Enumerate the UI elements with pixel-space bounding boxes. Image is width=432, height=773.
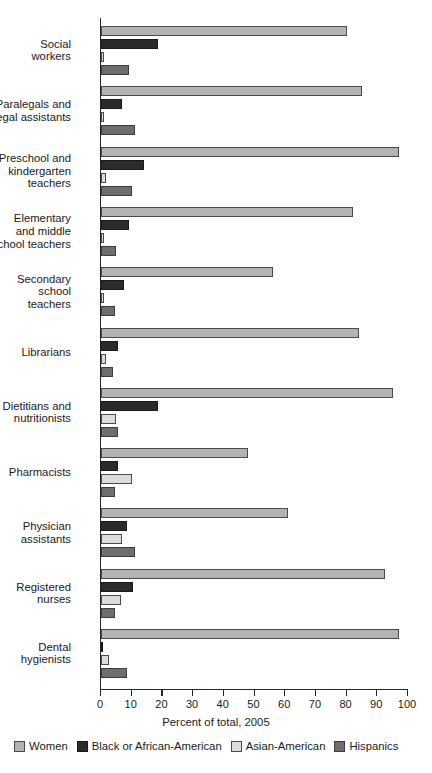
x-axis-tick bbox=[223, 690, 224, 696]
bar bbox=[101, 160, 144, 170]
bar bbox=[101, 246, 116, 256]
bar bbox=[101, 86, 362, 96]
bar bbox=[101, 534, 122, 544]
legend-item[interactable]: Black or African-American bbox=[77, 740, 222, 752]
x-axis-tick-label: 80 bbox=[339, 698, 351, 710]
bar bbox=[101, 642, 103, 652]
bar bbox=[101, 112, 104, 122]
legend-swatch-icon bbox=[334, 741, 345, 752]
category-label: Physician assistants bbox=[0, 520, 71, 545]
x-axis-tick bbox=[161, 690, 162, 696]
bar bbox=[101, 414, 116, 424]
legend-item[interactable]: Hispanics bbox=[334, 740, 398, 752]
bar bbox=[101, 280, 124, 290]
x-axis-tick-label: 10 bbox=[124, 698, 136, 710]
bar-group: Social workers bbox=[101, 26, 408, 75]
bar bbox=[101, 427, 118, 437]
bar bbox=[101, 99, 122, 109]
bar-group: Paralegals and legal assistants bbox=[101, 86, 408, 135]
bar bbox=[101, 448, 248, 458]
bar bbox=[101, 521, 127, 531]
x-axis-tick bbox=[192, 690, 193, 696]
category-label: Secondary school teachers bbox=[0, 273, 71, 311]
bar bbox=[101, 52, 104, 62]
bar-group: Librarians bbox=[101, 328, 408, 377]
category-label: Paralegals and legal assistants bbox=[0, 98, 71, 123]
bar bbox=[101, 26, 347, 36]
legend-label: Asian-American bbox=[246, 740, 326, 752]
bar-group: Dental hygienists bbox=[101, 629, 408, 678]
bar-group: Elementary and middle school teachers bbox=[101, 207, 408, 256]
bar bbox=[101, 125, 135, 135]
bar-group: Secondary school teachers bbox=[101, 267, 408, 316]
bar bbox=[101, 388, 393, 398]
legend-swatch-icon bbox=[231, 741, 242, 752]
legend-swatch-icon bbox=[77, 741, 88, 752]
x-axis-tick-label: 40 bbox=[217, 698, 229, 710]
x-axis-tick bbox=[100, 690, 101, 696]
legend-swatch-icon bbox=[14, 741, 25, 752]
bar bbox=[101, 39, 158, 49]
category-label: Dietitians and nutritionists bbox=[0, 400, 71, 425]
bar bbox=[101, 220, 129, 230]
bar bbox=[101, 582, 133, 592]
bar bbox=[101, 608, 115, 618]
bar bbox=[101, 655, 109, 665]
bar-group: Dietitians and nutritionists bbox=[101, 388, 408, 437]
x-axis-tick bbox=[346, 690, 347, 696]
bar bbox=[101, 233, 104, 243]
bar-group: Pharmacists bbox=[101, 448, 408, 497]
x-axis-title: Percent of total, 2005 bbox=[0, 716, 432, 728]
bar bbox=[101, 267, 273, 277]
bar bbox=[101, 293, 104, 303]
legend-label: Women bbox=[29, 740, 68, 752]
bar-group: Physician assistants bbox=[101, 508, 408, 557]
bar bbox=[101, 629, 399, 639]
x-axis-tick bbox=[315, 690, 316, 696]
x-axis-tick-label: 70 bbox=[309, 698, 321, 710]
bar bbox=[101, 401, 158, 411]
legend-item[interactable]: Asian-American bbox=[231, 740, 326, 752]
category-label: Registered nurses bbox=[0, 581, 71, 606]
category-label: Dental hygienists bbox=[0, 641, 71, 666]
category-label: Preschool and kindergarten teachers bbox=[0, 152, 71, 190]
x-axis-tick bbox=[254, 690, 255, 696]
legend-item[interactable]: Women bbox=[14, 740, 68, 752]
x-axis-tick-label: 100 bbox=[398, 698, 417, 710]
bar bbox=[101, 306, 115, 316]
x-axis-tick-label: 0 bbox=[97, 698, 103, 710]
x-axis-tick bbox=[284, 690, 285, 696]
legend-label: Hispanics bbox=[349, 740, 398, 752]
category-label: Social workers bbox=[0, 38, 71, 63]
bar bbox=[101, 173, 106, 183]
category-label: Librarians bbox=[0, 346, 71, 359]
bar bbox=[101, 474, 132, 484]
bar bbox=[101, 186, 132, 196]
bar-group: Preschool and kindergarten teachers bbox=[101, 147, 408, 196]
bar bbox=[101, 595, 121, 605]
bar bbox=[101, 508, 288, 518]
x-axis-tick-label: 20 bbox=[155, 698, 167, 710]
x-axis-tick-label: 50 bbox=[247, 698, 259, 710]
x-axis-tick bbox=[407, 690, 408, 696]
legend-label: Black or African-American bbox=[92, 740, 222, 752]
plot-area: 0102030405060708090100 Social workersPar… bbox=[0, 0, 432, 700]
bar bbox=[101, 147, 399, 157]
bar bbox=[101, 569, 385, 579]
bar bbox=[101, 461, 118, 471]
bar bbox=[101, 354, 106, 364]
bar-group: Registered nurses bbox=[101, 569, 408, 618]
x-axis-tick bbox=[376, 690, 377, 696]
chart-legend: WomenBlack or African-AmericanAsian-Amer… bbox=[0, 740, 432, 752]
bar bbox=[101, 668, 127, 678]
bar bbox=[101, 547, 135, 557]
category-label: Elementary and middle school teachers bbox=[0, 212, 71, 250]
bar bbox=[101, 328, 359, 338]
x-axis-tick-label: 30 bbox=[186, 698, 198, 710]
bar bbox=[101, 65, 129, 75]
x-axis-tick bbox=[131, 690, 132, 696]
chart-root: 0102030405060708090100 Social workersPar… bbox=[0, 0, 432, 773]
x-axis-tick-label: 90 bbox=[370, 698, 382, 710]
x-axis-tick-label: 60 bbox=[278, 698, 290, 710]
bar bbox=[101, 487, 115, 497]
